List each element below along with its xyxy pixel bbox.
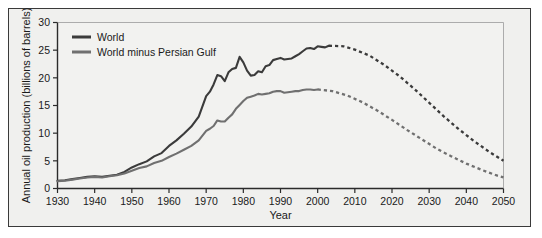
x-tick-label: 1950	[120, 195, 144, 207]
y-tick-label: 15	[38, 99, 50, 111]
y-tick-label: 10	[38, 127, 50, 139]
x-tick-label: 2040	[455, 195, 479, 207]
x-tick-label: 2050	[492, 195, 516, 207]
legend-label: World	[97, 31, 124, 43]
x-tick-label: 1990	[269, 195, 293, 207]
y-tick-label: 0	[44, 182, 50, 194]
y-tick-label: 5	[44, 155, 50, 167]
x-tick-label: 1960	[157, 195, 181, 207]
x-tick-label: 2030	[417, 195, 441, 207]
figure-container: 0510152025301930194019501960197019801990…	[0, 0, 542, 238]
x-tick-label: 2020	[380, 195, 404, 207]
legend-label: World minus Persian Gulf	[97, 46, 216, 58]
y-tick-label: 30	[38, 16, 50, 28]
y-tick-label: 20	[38, 72, 50, 84]
x-tick-label: 1980	[232, 195, 256, 207]
x-tick-label: 1940	[83, 195, 107, 207]
y-axis-title: Annual oil production (billions of barre…	[20, 8, 32, 204]
x-tick-label: 2010	[343, 195, 367, 207]
x-axis-title: Year	[269, 209, 292, 221]
x-tick-label: 2000	[306, 195, 330, 207]
oil-production-chart: 0510152025301930194019501960197019801990…	[0, 0, 542, 238]
x-tick-label: 1930	[46, 195, 70, 207]
x-tick-label: 1970	[194, 195, 218, 207]
y-tick-label: 25	[38, 44, 50, 56]
